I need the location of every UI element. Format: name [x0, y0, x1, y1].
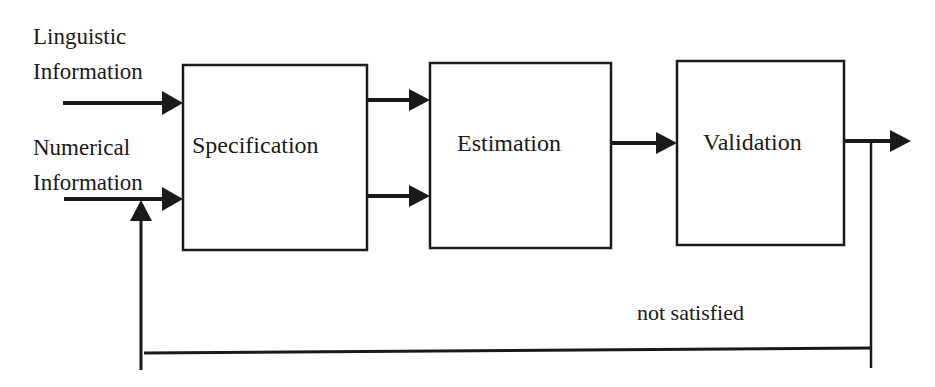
validation-box: Validation [677, 61, 844, 245]
arrow-spec-to-est-top [367, 89, 430, 111]
input-label-linguistic-line2: Information [33, 59, 143, 84]
arrow-est-to-val [611, 132, 677, 154]
input-label-numerical-line2: Information [33, 170, 143, 195]
arrow-output [844, 130, 911, 152]
estimation-box: Estimation [430, 63, 611, 248]
validation-label: Validation [703, 129, 802, 155]
estimation-label: Estimation [457, 130, 561, 156]
arrow-linguistic-input [63, 91, 183, 115]
feedback-label: not satisfied [637, 300, 744, 325]
input-label-linguistic-line1: Linguistic [33, 24, 126, 49]
specification-label: Specification [192, 132, 319, 158]
specification-box: Specification [183, 65, 367, 250]
input-label-numerical-line1: Numerical [33, 135, 130, 160]
process-flow-diagram: Linguistic Information Numerical Informa… [0, 0, 935, 387]
arrow-spec-to-est-bottom [367, 185, 430, 207]
